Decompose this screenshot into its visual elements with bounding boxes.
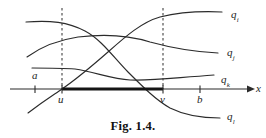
curve-label-q-i: qi — [231, 9, 238, 23]
curve-label-q-i-base: q — [231, 8, 237, 20]
axis-label-x: x — [256, 83, 261, 94]
curve-label-q-k-base: q — [221, 73, 227, 85]
axis-label-a: a — [32, 70, 38, 81]
axis-label-v: v — [160, 94, 165, 105]
curve-q-k — [32, 68, 214, 80]
curve-label-q-j-base: q — [227, 46, 233, 58]
axis-label-u: u — [58, 94, 64, 105]
curve-label-q-j-subscript: j — [233, 54, 235, 62]
curve-label-q-j: qj — [227, 47, 234, 61]
curve-label-q-i-subscript: i — [237, 16, 239, 24]
curve-label-q-k-subscript: k — [227, 81, 230, 89]
curve-label-q-k: qk — [221, 74, 230, 88]
arrow-right-icon — [247, 86, 255, 93]
figure-caption: Fig. 1.4. — [0, 119, 266, 134]
axis-label-b: b — [197, 94, 203, 105]
figure-container: a u v b x qi qj qk ql Fig. 1.4. — [0, 0, 266, 138]
curve-q-j — [27, 35, 218, 57]
